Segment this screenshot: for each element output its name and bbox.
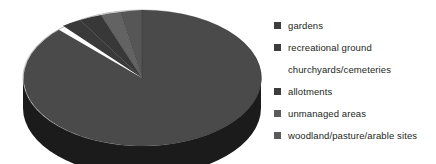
legend-label-gardens: gardens [288, 20, 323, 31]
pie-top-face [24, 10, 262, 146]
legend-swatch-recreational-ground [274, 44, 281, 51]
legend-swatch-allotments [274, 88, 281, 95]
legend-item-recreational-ground[interactable]: recreational ground [272, 36, 436, 58]
pie-chart-figure: gardens recreational ground churchyards/… [0, 0, 436, 164]
legend-swatch-unmanaged-areas [274, 110, 281, 117]
legend-swatch-woodland-pasture-arable-sites [274, 132, 281, 139]
legend-swatch-churchyards-cemeteries [274, 66, 281, 73]
legend-swatch-gardens [274, 22, 281, 29]
pie-svg [0, 0, 272, 164]
legend-label-woodland-pasture-arable-sites: woodland/pasture/arable sites [288, 130, 417, 141]
legend-item-gardens[interactable]: gardens [272, 14, 436, 36]
legend-label-churchyards-cemeteries: churchyards/cemeteries [288, 64, 391, 75]
legend-item-woodland-pasture-arable-sites[interactable]: woodland/pasture/arable sites [272, 124, 436, 146]
pie-chart-graphic [0, 0, 272, 164]
pie-slice-gardens [24, 10, 262, 146]
legend-label-unmanaged-areas: unmanaged areas [288, 108, 366, 119]
legend-label-allotments: allotments [288, 86, 332, 97]
legend-item-unmanaged-areas[interactable]: unmanaged areas [272, 102, 436, 124]
chart-legend: gardens recreational ground churchyards/… [272, 0, 436, 164]
legend-item-churchyards-cemeteries[interactable]: churchyards/cemeteries [272, 58, 436, 80]
legend-label-recreational-ground: recreational ground [288, 42, 372, 53]
legend-item-allotments[interactable]: allotments [272, 80, 436, 102]
